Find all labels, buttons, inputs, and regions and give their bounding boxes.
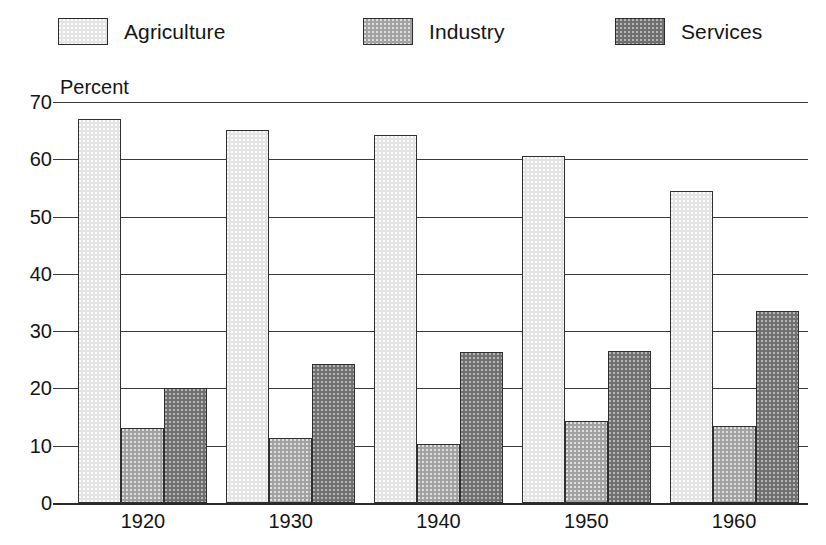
x-axis-baseline	[53, 503, 808, 505]
y-tick-label-40: 40	[6, 262, 52, 285]
y-tick-20	[53, 388, 69, 389]
y-tick-label-70: 70	[6, 91, 52, 114]
y-tick-10	[53, 446, 69, 447]
bar-services-1960	[756, 311, 799, 503]
x-axis-labels: 19201930194019501960	[69, 510, 808, 542]
y-tick-30	[53, 331, 69, 332]
y-tick-60	[53, 159, 69, 160]
bar-industry-1930	[269, 438, 312, 503]
bar-services-1920	[164, 388, 207, 503]
y-tick-70	[53, 102, 69, 103]
x-tick-label-1930: 1930	[268, 510, 313, 533]
bar-industry-1920	[121, 428, 164, 503]
bar-industry-1960	[713, 426, 756, 503]
y-axis-labels: 010203040506070	[0, 102, 52, 503]
bar-chart: Percent 010203040506070 1920193019401950…	[0, 0, 826, 545]
bar-services-1950	[608, 351, 651, 503]
y-tick-40	[53, 274, 69, 275]
x-tick-label-1960: 1960	[712, 510, 757, 533]
y-tick-label-10: 10	[6, 434, 52, 457]
bar-industry-1940	[417, 444, 460, 503]
y-tick-label-50: 50	[6, 205, 52, 228]
bar-industry-1950	[565, 421, 608, 503]
bar-agriculture-1960	[670, 191, 713, 503]
y-axis-title: Percent	[60, 76, 129, 99]
chart-page: Agriculture Industry Services Percent 01…	[0, 0, 826, 545]
bar-series-container	[69, 102, 808, 503]
bar-services-1930	[312, 364, 355, 503]
y-tick-50	[53, 217, 69, 218]
bar-services-1940	[460, 352, 503, 503]
bar-agriculture-1940	[374, 135, 417, 503]
bar-agriculture-1950	[522, 156, 565, 503]
bar-agriculture-1930	[226, 130, 269, 504]
x-tick-label-1950: 1950	[564, 510, 609, 533]
y-tick-label-60: 60	[6, 148, 52, 171]
x-tick-label-1920: 1920	[121, 510, 166, 533]
y-tick-label-20: 20	[6, 377, 52, 400]
x-tick-label-1940: 1940	[416, 510, 461, 533]
y-tick-label-30: 30	[6, 320, 52, 343]
bar-agriculture-1920	[78, 119, 121, 503]
y-tick-label-0: 0	[6, 492, 52, 515]
